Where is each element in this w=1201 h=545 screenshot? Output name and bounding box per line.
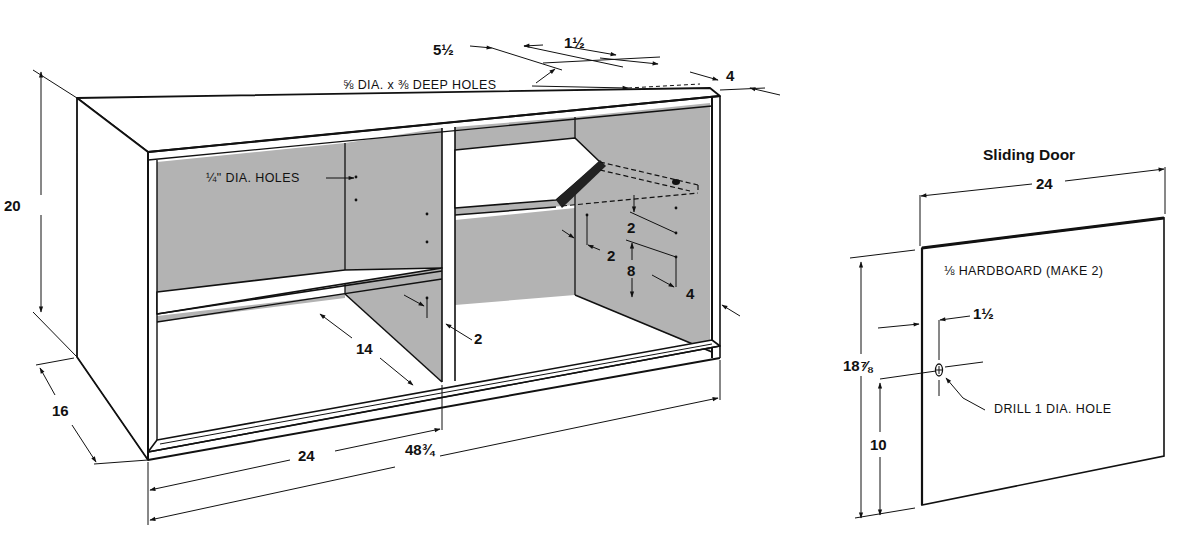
dim-half-width: 24	[298, 448, 315, 463]
dim-shelf-depth: 14	[356, 341, 373, 356]
dim-top-hole-offset-b: 1½	[564, 35, 585, 50]
dim-top-hole-offset-a: 5½	[433, 42, 454, 57]
note-shelf-holes: ¼" DIA. HOLES	[206, 172, 300, 185]
door-dim-hole-height: 10	[870, 437, 887, 452]
door-note-drill: DRILL 1 DIA. HOLE	[994, 403, 1112, 416]
dim-shelf-hole-inset-front: 2	[607, 248, 615, 263]
dim-top-hole-edge: 4	[726, 68, 734, 83]
door-title: Sliding Door	[983, 147, 1075, 163]
note-top-holes: ⅝ DIA. x ⅜ DEEP HOLES	[343, 79, 496, 92]
cabinet-drawing	[77, 88, 720, 460]
dim-divider-inset: 2	[474, 331, 482, 346]
dim-height: 20	[4, 198, 21, 213]
door-dim-height: 18⅞	[843, 358, 872, 373]
dim-depth: 16	[52, 403, 69, 418]
cabinet-left-side	[77, 98, 148, 460]
door-note-material: ⅛ HARDBOARD (MAKE 2)	[944, 265, 1103, 278]
dim-overall-width: 48¾	[405, 442, 434, 457]
interior-back-panels	[157, 103, 710, 382]
dim-shelf-hole-spacing: 8	[627, 263, 635, 278]
dim-shelf-hole-inset-back: 4	[686, 286, 694, 301]
door-panel	[922, 218, 1164, 505]
dim-shelf-hole-from-top: 2	[627, 220, 635, 235]
door-dim-width: 24	[1036, 176, 1053, 191]
woodworking-plan-drawing: 20 16 24 48¾ 14 2 2 8 2 4 5½ 1½ 4 ⅝ DIA.…	[0, 0, 1201, 545]
door-dim-hole-inset: 1½	[973, 306, 994, 321]
sliding-door-drawing	[850, 167, 1165, 518]
